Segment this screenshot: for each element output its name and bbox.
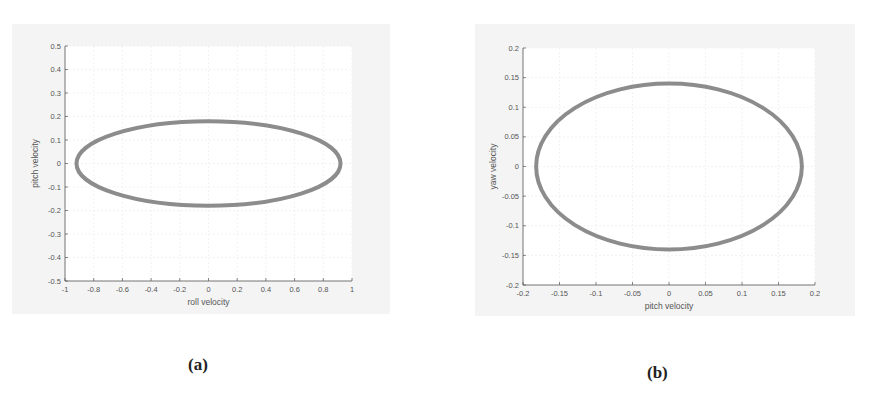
y-axis-label: yaw velocity — [488, 143, 498, 190]
x-tick-label: -0.4 — [145, 285, 158, 294]
x-tick-label: -0.1 — [590, 289, 603, 298]
x-tick-label: 0 — [206, 285, 210, 294]
y-tick-label: -0.4 — [48, 253, 61, 262]
y-tick-label: -0.3 — [48, 230, 61, 239]
y-tick-label: 0.5 — [51, 42, 61, 51]
x-tick-label: -0.2 — [173, 285, 186, 294]
y-tick-label: 0.3 — [51, 89, 61, 98]
y-tick-label: -0.1 — [506, 221, 519, 230]
y-tick-label: 0.1 — [509, 103, 519, 112]
x-tick-label: -0.6 — [116, 285, 129, 294]
y-tick-label: 0.15 — [504, 73, 519, 82]
y-tick-label: -0.1 — [48, 183, 61, 192]
x-tick-label: -0.2 — [517, 289, 530, 298]
caption-a: (a) — [188, 355, 208, 375]
x-tick-label: 1 — [350, 285, 354, 294]
x-tick-label: -1 — [62, 285, 69, 294]
x-tick-label: 0.4 — [261, 285, 271, 294]
y-tick-label: -0.2 — [48, 206, 61, 215]
y-tick-label: 0.2 — [509, 44, 519, 53]
x-tick-label: 0.1 — [737, 289, 747, 298]
x-tick-label: 0.2 — [810, 289, 820, 298]
x-tick-label: 0 — [667, 289, 671, 298]
y-tick-label: -0.15 — [502, 251, 519, 260]
y-tick-label: 0 — [515, 162, 519, 171]
y-tick-label: -0.05 — [502, 192, 519, 201]
y-tick-label: -0.5 — [48, 277, 61, 286]
x-tick-label: 0.05 — [698, 289, 713, 298]
chart-a: -1-0.8-0.6-0.4-0.200.20.40.60.810.50.40.… — [30, 42, 354, 308]
y-axis-label: pitch velocity — [30, 138, 40, 187]
x-axis-label: pitch velocity — [645, 301, 694, 311]
y-tick-label: 0.1 — [51, 136, 61, 145]
x-tick-label: 0.15 — [771, 289, 786, 298]
x-tick-label: 0.2 — [232, 285, 242, 294]
x-axis-label: roll velocity — [187, 297, 230, 307]
y-tick-label: 0 — [57, 159, 61, 168]
x-tick-label: -0.15 — [551, 289, 568, 298]
x-tick-label: -0.8 — [87, 285, 100, 294]
x-tick-label: 0.8 — [318, 285, 328, 294]
x-tick-label: -0.05 — [624, 289, 641, 298]
caption-b: (b) — [647, 363, 668, 383]
x-tick-label: 0.6 — [289, 285, 299, 294]
charts-canvas: -1-0.8-0.6-0.4-0.200.20.40.60.810.50.40.… — [0, 0, 873, 402]
y-tick-label: 0.2 — [51, 112, 61, 121]
y-tick-label: 0.4 — [51, 65, 61, 74]
y-tick-label: -0.2 — [506, 281, 519, 290]
y-tick-label: 0.05 — [504, 132, 519, 141]
chart-b: -0.2-0.15-0.1-0.0500.050.10.150.20.20.15… — [488, 44, 820, 312]
